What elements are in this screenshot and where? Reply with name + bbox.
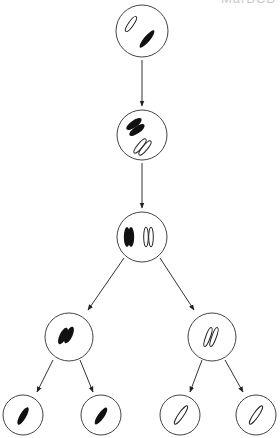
meiosis-diagram [0,0,280,438]
paired-chromosomes [124,227,154,247]
arrow-left-to-gamete-1 [37,360,53,392]
parent-chromosomes [124,15,157,49]
right-cell-chromosomes [202,327,219,347]
arrow-right-to-gamete-3 [190,360,202,392]
paternal-chromatid [144,227,149,247]
paternal-chromatid [149,227,154,247]
gamete-3-chromosome [173,405,190,426]
left-cell-chromosomes [56,325,76,345]
parent-cell [116,5,168,57]
paternal-chromosome [124,15,138,33]
arrow-paired-to-right [160,258,194,310]
replicated-chromosomes [125,116,153,157]
maternal-chromosome [138,29,157,50]
gamete-2-chromosome [93,406,110,426]
arrow-left-to-gamete-2 [80,360,93,392]
gamete-4-chromosome [248,405,265,426]
arrow-right-to-gamete-4 [225,360,243,392]
gamete-1-chromosome [15,406,31,427]
maternal-chromatid [128,227,134,247]
arrow-paired-to-left [88,258,124,310]
